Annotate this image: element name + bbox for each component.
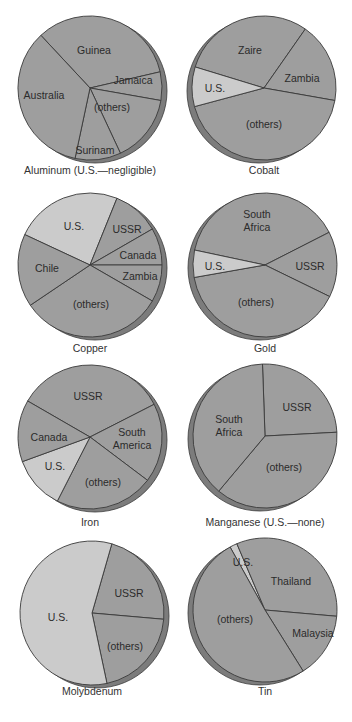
slice-label-thailand: Thailand xyxy=(271,575,311,587)
slice-label-u-s: U.S. xyxy=(233,556,253,568)
slice-label-others: (others) xyxy=(217,613,253,625)
mineral-production-pie-charts: GuineaJamaica(others)SurinamAustraliaAlu… xyxy=(0,0,352,722)
chart-caption: Tin xyxy=(175,685,352,697)
slice-label-malaysia: Malaysia xyxy=(292,627,334,639)
pie-svg: U.S.ThailandMalaysia(others) xyxy=(0,0,352,722)
